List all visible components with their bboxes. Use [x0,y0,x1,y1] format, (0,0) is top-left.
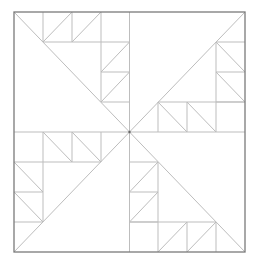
pattern-line [187,102,216,132]
pattern-line [43,12,72,42]
pattern-line [158,222,187,252]
pattern-line [14,162,43,192]
pattern-line [130,192,159,222]
pattern-line [130,162,159,192]
pattern-line [158,102,187,132]
quadrant-bottom-right [130,132,246,252]
pattern-line [216,42,245,72]
pattern-line [72,132,101,162]
pinwheel-quilt-diagram [0,0,257,263]
quadrant-top-left [14,12,130,132]
pattern-line [101,42,130,72]
quadrant-bottom-left [14,132,130,252]
pattern-line [72,12,101,42]
pattern-line [187,222,216,252]
pattern-line [216,72,245,102]
center-point [128,131,130,133]
pattern-line [101,72,130,102]
pattern-line [43,132,72,162]
pattern-line [14,192,43,222]
quadrant-top-right [130,12,246,132]
